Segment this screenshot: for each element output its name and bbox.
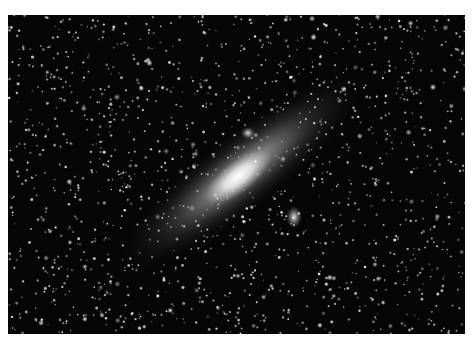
star [83,76,85,78]
star [173,305,174,306]
star [77,186,81,190]
star [395,235,397,237]
star [253,159,259,165]
star [173,64,174,65]
star [432,225,436,229]
star [191,122,194,125]
star [93,257,96,260]
star [335,228,337,230]
star [90,151,92,153]
star [242,246,244,248]
star [335,52,337,54]
star [428,323,430,325]
star [134,164,138,168]
star [107,166,109,168]
star [450,202,451,203]
star [406,99,408,101]
star [53,274,55,276]
star [319,271,320,272]
star [121,215,123,217]
star [238,307,240,309]
star [124,183,125,184]
star [181,149,182,150]
star [450,161,453,164]
star [401,261,403,263]
star [342,147,343,148]
star [312,183,314,185]
star [92,144,94,146]
star [446,194,448,196]
star [35,308,36,309]
star [86,260,88,262]
star [225,43,227,45]
star [375,318,376,319]
star [435,29,437,31]
star [238,61,239,62]
star [129,131,130,132]
star [152,16,154,18]
star [278,64,280,66]
star [372,257,374,259]
star [249,264,250,265]
star [374,105,376,107]
star [355,17,357,19]
star [266,36,269,39]
star [309,15,316,22]
star [13,196,15,198]
star [124,317,126,319]
star [99,101,101,103]
star [17,101,18,102]
star [99,113,100,114]
star [160,314,162,316]
star [112,66,114,68]
star [137,104,141,108]
star [311,214,314,217]
star [442,241,444,243]
star [383,199,386,202]
star [10,121,12,123]
star [11,316,13,318]
star [239,104,242,107]
star [71,269,73,271]
star [38,257,40,259]
star [272,287,274,289]
star [306,280,308,282]
star [74,196,76,198]
star [224,110,225,111]
star [46,78,48,80]
star [381,163,383,165]
star [384,72,385,73]
star [137,82,139,84]
star [46,75,48,77]
star [88,54,89,55]
star [232,104,234,106]
star [265,294,266,295]
star [139,286,143,290]
star [66,279,67,280]
star [416,52,419,55]
star [111,109,113,111]
star [222,243,225,246]
star [66,142,68,144]
star [125,304,127,306]
star [120,173,122,175]
star [242,77,246,81]
star [320,214,322,216]
star [71,110,73,112]
star [410,259,412,261]
star [151,321,153,323]
star [268,42,269,43]
star [20,248,21,249]
star [120,76,123,79]
star [128,152,130,154]
star [97,38,100,41]
star [113,47,115,49]
star [148,295,149,296]
star [86,56,90,60]
star [230,331,231,332]
star [91,241,93,243]
star [123,41,125,43]
star [451,305,453,307]
star [140,196,142,198]
star [319,196,320,197]
